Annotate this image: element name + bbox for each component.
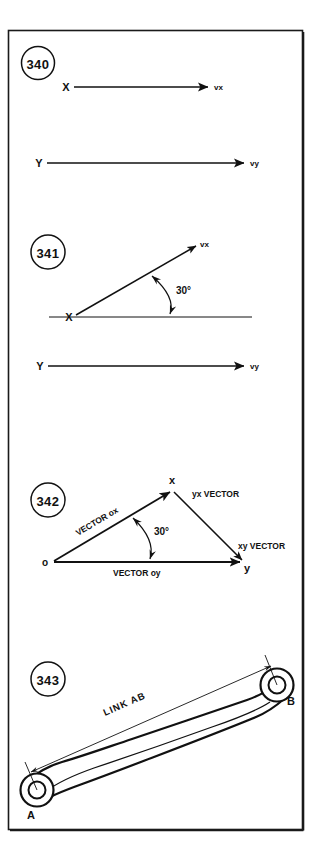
figure-342-right-label: y xyxy=(244,562,251,574)
figure-343-pin-b-label: B xyxy=(287,695,295,707)
figure-343-pin-a-label: A xyxy=(27,809,35,821)
figure-342-vector-oy-label: VECTOR oy xyxy=(113,568,161,578)
figure-341-number: 341 xyxy=(36,246,59,261)
figure-341-vx-label: vx xyxy=(200,240,209,249)
figure-342-apex-label: x xyxy=(169,474,176,486)
figure-340-vy-label: vy xyxy=(250,159,259,168)
figure-342-angle-label: 30° xyxy=(154,526,169,537)
figure-341-vy-label: vy xyxy=(250,362,259,371)
drawing-sheet: 340 X vx Y vy 341 X vx 30° Y xyxy=(0,0,322,859)
figure-342-vector-yx-label: yx VECTOR xyxy=(192,489,239,499)
figure-343-number: 343 xyxy=(36,673,59,688)
figure-342-vector-xy-label: xy VECTOR xyxy=(238,541,285,551)
technical-drawing-canvas: 340 X vx Y vy 341 X vx 30° Y xyxy=(0,0,322,859)
figure-342-origin-label: o xyxy=(42,557,48,568)
figure-341-x-tail-label: X xyxy=(65,311,73,323)
figure-342-number: 342 xyxy=(36,494,59,509)
figure-340-vx-label: vx xyxy=(214,83,223,92)
figure-340-y-tail-label: Y xyxy=(35,157,43,169)
figure-341-angle-label: 30° xyxy=(176,285,191,296)
figure-340-x-tail-label: X xyxy=(62,81,70,93)
figure-340-number: 340 xyxy=(26,57,49,72)
figure-341-y-tail-label: Y xyxy=(36,360,44,372)
